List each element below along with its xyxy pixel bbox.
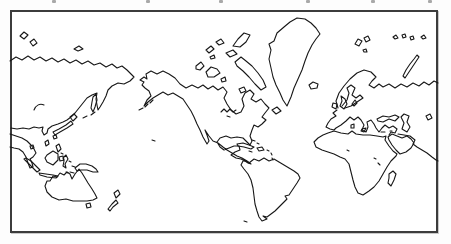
north-america-mainland-outline <box>140 71 269 164</box>
novaya-zemlya-outline <box>403 55 419 78</box>
kuril-islands-outline <box>83 112 95 118</box>
baffin-island-outline <box>235 57 266 90</box>
new-zealand-north-island-outline <box>114 190 120 198</box>
southeast-asia-coast-outline <box>10 134 36 168</box>
madagascar-outline <box>388 171 396 186</box>
ellesmere-island-outline <box>233 33 250 47</box>
south-america-outline <box>241 158 300 221</box>
philippines-luzon-outline <box>56 144 61 152</box>
queen-elizabeth-islands-outline <box>206 39 224 59</box>
wrangel-island-west-outline <box>20 32 28 39</box>
sulawesi-island-outline <box>63 155 68 168</box>
hispaniola-outline <box>257 147 264 151</box>
japan-hokkaido-outline <box>70 114 77 121</box>
japan-honshu-outline <box>53 121 73 135</box>
crete-cyprus-dots-outline <box>381 131 392 132</box>
iceland-outline <box>309 82 318 89</box>
severnaya-zemlya-dots-outline <box>421 35 426 39</box>
king-william-island-outline <box>221 77 226 82</box>
corsica-sardinia-outline <box>351 124 354 128</box>
borneo-island-outline <box>45 151 58 165</box>
wrangel-island-east-outline <box>30 39 37 46</box>
new-siberian-islands-outline <box>74 46 83 51</box>
svalbard-islands-outline <box>355 36 370 52</box>
new-guinea-island-outline <box>75 164 98 172</box>
great-lakes-outline <box>221 109 236 117</box>
japan-kyushu-outline <box>53 135 57 139</box>
scandinavia-russia-north-coast-outline <box>336 70 438 108</box>
philippines-visayas-dot-outline <box>61 153 63 154</box>
iran-india-coast-outline <box>398 134 438 161</box>
tasmania-island-outline <box>86 203 91 208</box>
africa-outline <box>314 131 397 195</box>
moluccas-timor-dots-outline <box>66 161 75 173</box>
newfoundland-island-outline <box>272 107 281 114</box>
aral-sea-outline <box>426 114 432 120</box>
black-sea-outline <box>377 115 399 122</box>
devon-island-outline <box>226 50 237 57</box>
southampton-island-outline <box>239 87 246 93</box>
world-map-figure <box>0 0 451 244</box>
falkland-dot-outline <box>244 221 247 222</box>
australia-outline <box>45 169 97 201</box>
lesser-antilles-dots-outline <box>267 150 273 160</box>
bahamas-dots-outline <box>252 140 259 144</box>
greenland-outline <box>269 18 320 106</box>
franz-josef-land-dots-outline <box>393 34 414 40</box>
hawaii-dots-outline <box>152 140 155 141</box>
lake-baikal-outline <box>34 104 44 110</box>
world-map-svg <box>0 0 451 244</box>
java-island-outline <box>39 173 58 178</box>
jamaica-dot-outline <box>249 151 252 152</box>
great-britain-island-outline <box>340 96 347 109</box>
new-zealand-south-island-outline <box>108 200 118 211</box>
victoria-island-outline <box>206 67 220 77</box>
arabian-peninsula-outline <box>388 134 414 154</box>
africa-lakes-dots-outline <box>347 150 380 165</box>
denmark-outline <box>352 100 357 106</box>
sakhalin-island-outline <box>91 94 97 112</box>
ireland-island-outline <box>332 103 337 109</box>
caspian-sea-outline <box>401 114 410 132</box>
banks-island-outline <box>196 62 204 70</box>
taiwan-island-outline <box>45 140 49 146</box>
